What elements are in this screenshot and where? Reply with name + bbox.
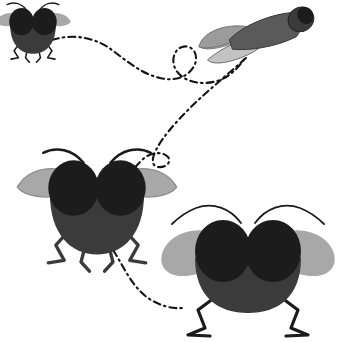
eye-right xyxy=(32,8,57,35)
eye-right xyxy=(245,220,301,282)
illustration-canvas: Housefly flight path illustration Four h… xyxy=(0,0,343,342)
eye-left xyxy=(195,220,251,282)
eye-left xyxy=(48,160,98,215)
eye-right xyxy=(95,160,145,215)
fly-illustration-svg xyxy=(0,0,343,342)
eye-left xyxy=(9,8,34,35)
